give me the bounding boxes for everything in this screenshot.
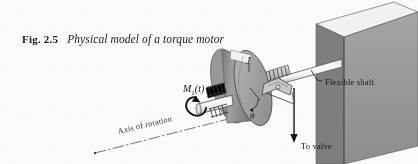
- caption-text: Physical model of a torque motor: [67, 33, 224, 45]
- angle-label: θ: [250, 112, 254, 121]
- caption-number: Fig. 2.5: [22, 33, 58, 45]
- torque-argument: (t): [195, 83, 204, 94]
- figure-container: Fig. 2.5Physical model of a torque motor…: [0, 0, 418, 164]
- inertia-label: J: [246, 56, 250, 66]
- valve-rod-arrowhead: [290, 134, 297, 143]
- wall-right-face: [344, 12, 418, 164]
- figure-caption: Fig. 2.5Physical model of a torque motor: [22, 29, 224, 47]
- torque-label: M1(t): [183, 84, 204, 97]
- bearing-pivot-pin: [276, 85, 280, 89]
- motor-shaft-end-cap: [196, 104, 201, 115]
- axis-origin-dot: [94, 152, 96, 154]
- valve-rod-assembly: [290, 88, 297, 143]
- to-valve-label: To valve: [301, 142, 332, 151]
- flexible-shaft-label: Flexible shaft: [325, 78, 374, 87]
